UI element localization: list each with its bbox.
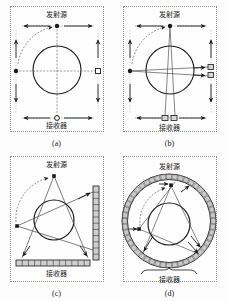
source-left (128, 69, 132, 73)
beam-arrow-lower-right (191, 236, 200, 247)
detector-array-bottom (16, 260, 90, 266)
panel-a-receiver-label: 接收器 (0, 122, 113, 130)
fan-ray-top-right (54, 176, 88, 258)
object-circle (34, 200, 74, 240)
ring-detector-cell (209, 229, 215, 235)
beam-arrow-lower-left (144, 236, 153, 251)
panel-b-emitter-label: 发射源 (113, 11, 226, 19)
ring-detector-cell (172, 174, 177, 179)
fan-ray-top-right (171, 186, 201, 248)
panel-d-receiver-label: 接收器 (113, 276, 226, 284)
detector-array-right (93, 186, 99, 260)
source-left (137, 227, 141, 231)
figure-four-scan-geometries: 发射源 接收器 (a) (0, 0, 227, 301)
ring-detector-cell (172, 262, 177, 267)
panel-b-caption: (b) (113, 139, 226, 149)
source-top (55, 24, 59, 28)
panel-c-receiver-label: 接收器 (0, 270, 113, 278)
panel-a-emitter-label: 发射源 (0, 11, 113, 19)
ring-detector-cell (160, 174, 165, 179)
panel-d-emitter-label: 发射源 (113, 163, 226, 171)
panel-c-emitter-label: 发射源 (0, 161, 113, 169)
panel-d: 发射源 接收器 (d) (113, 150, 226, 300)
ring-detector-cell (155, 261, 161, 267)
ring-detector-cell (210, 224, 215, 229)
ring-detector-cell (177, 261, 183, 267)
detector-right (96, 69, 101, 74)
ring-detector-cell (123, 207, 129, 213)
ring-detector-cell (122, 219, 127, 224)
receiver-brace (141, 267, 197, 274)
ring-detector-cell (155, 175, 161, 181)
source-top (52, 174, 56, 178)
rotation-arc (18, 27, 52, 64)
ring-detector-cell (177, 175, 183, 181)
panel-a-caption: (a) (0, 139, 113, 149)
ring-detector-cell (209, 207, 215, 213)
beam-arrow-right-upper (78, 193, 90, 199)
ring-detector-cell (211, 219, 216, 224)
source-left (14, 69, 18, 73)
rotation-arc (140, 188, 165, 226)
beam-arrow-right-1 (193, 68, 205, 69)
panel-c-caption: (c) (0, 289, 113, 299)
source-top (168, 24, 172, 28)
panel-b-receiver-label: 接收器 (113, 124, 226, 132)
source-top (169, 183, 173, 187)
panel-c: 发射源 接收器 (c) (0, 150, 113, 300)
ring-detector-cell (167, 263, 172, 268)
rotation-arc (16, 178, 48, 222)
ring-detector-cell (210, 212, 215, 217)
fan-ray-top-left (143, 186, 171, 253)
detector-ring (122, 174, 216, 268)
beam-arrow-bottom-left (23, 246, 30, 256)
panel-a: 发射源 接收器 (a) (0, 0, 113, 150)
source-left (15, 224, 19, 228)
fan-ray-top-1 (165, 27, 170, 116)
fan-ray-top-2 (170, 27, 175, 116)
beam-arrow-upper-right (181, 186, 189, 192)
fan-ray-left-lower (17, 226, 93, 250)
ring-detector-cell (123, 229, 129, 235)
beam-arrow-right-2 (193, 75, 205, 76)
fan-ray-top-left (22, 176, 54, 258)
panel-b: 发射源 接收器 (b) (113, 0, 226, 150)
panel-d-caption: (d) (113, 289, 226, 299)
ring-detector-cell (160, 262, 165, 267)
detector-bottom (55, 116, 60, 121)
ring-detector-cell (122, 224, 127, 229)
ring-detector-cell (122, 212, 127, 217)
ring-detector-cell (167, 174, 172, 179)
